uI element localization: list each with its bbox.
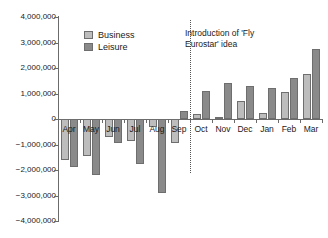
bar-chart: Business Leisure Introduction of 'Fly Eu… xyxy=(0,0,328,238)
event-annotation-label: Introduction of 'Fly Eurostar' idea xyxy=(185,28,254,50)
legend-swatch-business-icon xyxy=(84,31,93,39)
legend-label-business: Business xyxy=(98,31,135,40)
bar-business-jan xyxy=(259,113,267,119)
x-axis-tick-mark xyxy=(190,119,191,123)
bar-leisure-dec xyxy=(246,86,254,119)
x-axis-tick-mark xyxy=(102,119,103,123)
y-axis-tick-mark xyxy=(54,196,59,197)
x-axis-tick-mark xyxy=(168,119,169,123)
bar-leisure-mar xyxy=(312,49,320,119)
legend-swatch-leisure-icon xyxy=(84,43,93,51)
y-axis-tick-mark xyxy=(54,170,59,171)
y-axis-tick-label: −2,000,000 xyxy=(0,166,56,174)
y-axis-tick-mark xyxy=(54,94,59,95)
x-axis-tick-mark xyxy=(124,119,125,123)
bar-business-feb xyxy=(281,92,289,119)
y-axis-tick-label: 3,000,000 xyxy=(0,39,56,47)
x-axis-tick-label-mar: Mar xyxy=(297,125,325,134)
x-axis-tick-mark xyxy=(256,119,257,123)
bar-leisure-jan xyxy=(268,88,276,119)
y-axis-tick-label: 2,000,000 xyxy=(0,64,56,72)
bar-leisure-nov xyxy=(224,83,232,119)
x-axis-tick-mark xyxy=(212,119,213,123)
y-axis-tick-mark xyxy=(54,17,59,18)
x-axis-tick-mark xyxy=(278,119,279,123)
bar-leisure-oct xyxy=(202,91,210,119)
x-axis-tick-mark xyxy=(146,119,147,123)
y-axis-tick-mark xyxy=(54,43,59,44)
y-axis-tick-label: −4,000,000 xyxy=(0,217,56,225)
bar-business-dec xyxy=(237,101,245,119)
y-axis-tick-mark xyxy=(54,221,59,222)
y-axis-tick-label: 1,000,000 xyxy=(0,90,56,98)
y-axis-tick-label: 4,000,000 xyxy=(0,13,56,21)
x-axis-tick-mark xyxy=(58,119,59,123)
legend-label-leisure: Leisure xyxy=(98,43,128,52)
chart-legend: Business Leisure xyxy=(84,29,135,53)
y-axis-tick-label: 0 xyxy=(0,115,56,123)
bar-leisure-sep xyxy=(180,111,188,119)
y-axis-tick-mark xyxy=(54,145,59,146)
y-axis-tick-label: −3,000,000 xyxy=(0,192,56,200)
bar-business-mar xyxy=(303,74,311,119)
bar-business-nov xyxy=(215,117,223,119)
x-axis-tick-mark xyxy=(322,119,323,123)
y-axis-tick-label: −1,000,000 xyxy=(0,141,56,149)
x-axis-tick-mark xyxy=(234,119,235,123)
x-axis-tick-mark xyxy=(80,119,81,123)
bar-leisure-feb xyxy=(290,78,298,119)
legend-item-leisure: Leisure xyxy=(84,41,135,53)
legend-item-business: Business xyxy=(84,29,135,41)
x-axis-tick-mark xyxy=(300,119,301,123)
bar-business-oct xyxy=(193,114,201,119)
y-axis-tick-mark xyxy=(54,68,59,69)
